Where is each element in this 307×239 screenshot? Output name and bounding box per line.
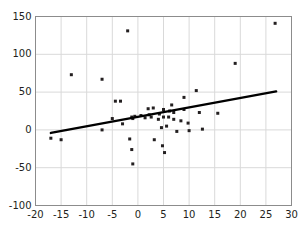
data-point: [187, 122, 190, 125]
x-axis-tick-label: 30: [277, 210, 307, 220]
data-point: [131, 162, 134, 165]
y-axis-tick-label: 50: [19, 87, 32, 97]
plot-area: [0, 0, 307, 239]
data-point: [130, 148, 133, 151]
data-point: [101, 78, 104, 81]
data-point: [128, 137, 131, 140]
data-point: [179, 119, 182, 122]
data-point: [114, 100, 117, 103]
data-point: [157, 118, 160, 121]
data-point: [162, 108, 165, 111]
data-point: [153, 138, 156, 141]
data-point: [119, 100, 122, 103]
data-point: [152, 106, 155, 109]
data-point: [167, 116, 170, 119]
data-point: [60, 138, 63, 141]
data-point: [188, 129, 191, 132]
data-point: [70, 73, 73, 76]
data-point: [195, 89, 198, 92]
data-point: [198, 111, 201, 114]
data-point: [126, 29, 129, 32]
data-point: [175, 130, 178, 133]
data-point: [121, 122, 124, 125]
scatter-chart: -100-50050100150 -20-15-10-5051015202530: [0, 0, 307, 239]
data-point: [165, 125, 168, 128]
data-point: [49, 137, 52, 140]
data-point: [172, 118, 175, 121]
data-point: [160, 126, 163, 129]
data-point: [170, 103, 173, 106]
data-point: [150, 116, 153, 119]
data-point: [162, 116, 165, 119]
data-point: [274, 22, 277, 25]
y-axis-tick-label: 150: [12, 12, 31, 22]
data-point: [101, 128, 104, 131]
y-axis-tick-label: 100: [12, 49, 31, 59]
data-point: [147, 107, 150, 110]
data-point: [161, 144, 164, 147]
data-points: [49, 22, 276, 166]
data-point: [182, 96, 185, 99]
data-point: [163, 151, 166, 154]
data-point: [201, 128, 204, 131]
data-point: [216, 112, 219, 115]
data-point: [111, 117, 114, 120]
y-axis-tick-label: -50: [15, 163, 31, 173]
y-axis-tick-label: 0: [25, 125, 31, 135]
data-point: [234, 62, 237, 65]
